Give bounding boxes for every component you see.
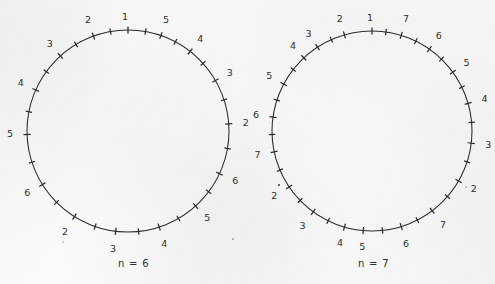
tick-mark — [385, 29, 386, 35]
tick-label: 6 — [24, 187, 30, 198]
tick-mark — [138, 228, 139, 234]
tick-label: 1 — [367, 12, 373, 23]
tick-label: 4 — [482, 93, 488, 104]
paper-speck — [465, 186, 466, 187]
tick-label: 4 — [18, 77, 24, 88]
tick-mark — [224, 148, 230, 149]
circle-tick-diagram: 1543265432654321765432765432765432 — [0, 0, 495, 284]
tick-label: 3 — [300, 220, 306, 231]
tick-label: 5 — [7, 128, 13, 139]
tick-label: 5 — [463, 57, 469, 68]
tick-mark-labeled — [212, 79, 218, 83]
tick-label: 5 — [359, 241, 365, 252]
tick-label: 5 — [204, 212, 210, 223]
tick-mark — [468, 122, 474, 123]
tick-label: 2 — [62, 226, 68, 237]
tick-mark — [26, 111, 32, 112]
tick-mark — [177, 216, 180, 222]
tick-mark-labeled — [188, 49, 192, 55]
tick-mark — [74, 42, 77, 47]
tick-label: 1 — [122, 11, 128, 22]
tick-mark-labeled — [281, 82, 287, 85]
tick-label: 3 — [47, 38, 53, 49]
tick-label: 2 — [271, 190, 277, 201]
tick-mark-labeled — [73, 214, 77, 220]
tick-mark-labeled — [225, 124, 232, 125]
tick-label: 7 — [403, 13, 409, 24]
tick-label: 7 — [254, 149, 260, 160]
figure-area: 1543265432654321765432765432765432 — [0, 0, 495, 284]
tick-label: 2 — [337, 13, 343, 24]
tick-label: 3 — [305, 28, 311, 39]
circle-panel-right: 1765432765432765432 — [253, 12, 491, 253]
tick-label: 5 — [163, 14, 169, 25]
tick-label: 2 — [85, 14, 91, 25]
tick-mark-labeled — [316, 44, 320, 50]
tick-label: 7 — [440, 219, 446, 230]
tick-mark-labeled — [455, 179, 461, 183]
tick-label: 6 — [436, 30, 442, 41]
paper-speck — [232, 238, 233, 239]
paper-speck — [62, 241, 63, 242]
tick-mark-labeled — [468, 143, 475, 144]
tick-mark — [382, 227, 383, 233]
tick-mark-labeled — [286, 185, 292, 189]
tick-label: 4 — [337, 237, 343, 248]
circle-outline-right — [272, 31, 472, 231]
tick-label: 3 — [227, 67, 233, 78]
tick-mark-labeled — [430, 208, 434, 214]
tick-label: 5 — [266, 70, 272, 81]
tick-mark-labeled — [427, 46, 431, 52]
tick-label: 2 — [471, 183, 477, 194]
tick-label: 4 — [197, 33, 203, 44]
tick-mark-labeled — [115, 228, 116, 235]
tick-mark-labeled — [271, 151, 278, 152]
tick-label: 3 — [485, 139, 491, 150]
tick-mark — [110, 28, 111, 34]
tick-mark-labeled — [39, 183, 45, 187]
tick-label: 6 — [232, 175, 238, 186]
tick-label: 3 — [110, 243, 116, 254]
tick-label: 6 — [403, 238, 409, 249]
circle-panel-left: 154326543265432 — [7, 11, 249, 254]
tick-mark — [44, 70, 49, 74]
paper-speck — [278, 184, 280, 186]
tick-mark-labeled — [363, 227, 364, 234]
tick-label: 4 — [290, 40, 296, 51]
tick-label: 6 — [253, 109, 259, 120]
tick-mark — [206, 190, 211, 194]
tick-mark-labeled — [311, 209, 315, 215]
tick-mark — [145, 28, 146, 34]
tick-label: 2 — [243, 117, 249, 128]
tick-mark-labeled — [269, 117, 276, 118]
tick-label: 4 — [161, 238, 167, 249]
tick-mark-labeled — [450, 70, 456, 74]
